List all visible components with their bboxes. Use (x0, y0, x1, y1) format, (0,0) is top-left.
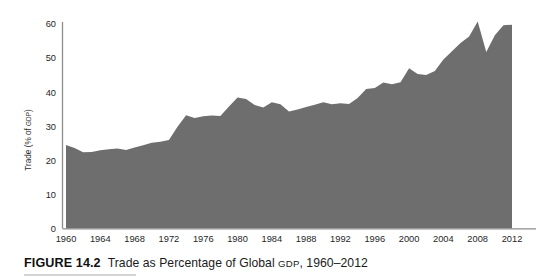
chart-plot-area: 0102030405060 19601964196819721976198019… (0, 0, 551, 250)
y-tick-40: 40 (46, 88, 56, 98)
x-tick-1984: 1984 (262, 234, 283, 244)
trade-share-area-chart: 0102030405060 19601964196819721976198019… (0, 0, 551, 250)
trade-area-series (66, 22, 512, 229)
y-axis-title-text: Trade (% of (24, 126, 33, 171)
figure-title-head: Trade as Percentage of Global (108, 256, 278, 270)
y-tick-20: 20 (46, 156, 56, 166)
figure-container: 0102030405060 19601964196819721976198019… (0, 0, 551, 277)
figure-caption-bar: FIGURE 14.2Trade as Percentage of Global… (0, 250, 551, 277)
y-tick-50: 50 (46, 53, 56, 63)
figure-number: FIGURE 14.2 (24, 256, 101, 270)
svg-text:Trade (% of GDP): Trade (% of GDP) (24, 109, 33, 171)
figure-caption: FIGURE 14.2Trade as Percentage of Global… (24, 253, 524, 271)
y-tick-0: 0 (51, 224, 56, 234)
x-tick-2004: 2004 (433, 234, 454, 244)
x-tick-2000: 2000 (399, 234, 420, 244)
caption-underline (24, 274, 136, 276)
y-tick-30: 30 (46, 122, 56, 132)
y-tick-60: 60 (46, 19, 56, 29)
x-tick-1992: 1992 (330, 234, 351, 244)
x-tick-1996: 1996 (364, 234, 385, 244)
x-tick-1972: 1972 (159, 234, 180, 244)
y-tick-10: 10 (46, 190, 56, 200)
x-axis-tick-labels: 1960196419681972197619801984198819921996… (56, 234, 523, 244)
x-tick-2012: 2012 (502, 234, 523, 244)
y-axis-tick-labels: 0102030405060 (46, 19, 56, 233)
x-tick-1960: 1960 (56, 234, 77, 244)
figure-title-tail: , 1960–2012 (300, 256, 368, 270)
x-tick-1976: 1976 (193, 234, 214, 244)
x-tick-1968: 1968 (124, 234, 145, 244)
x-tick-1980: 1980 (227, 234, 248, 244)
x-tick-1988: 1988 (296, 234, 317, 244)
y-axis-title: Trade (% of GDP) (24, 109, 33, 171)
x-tick-2008: 2008 (467, 234, 488, 244)
y-axis-title-tail: ) (24, 109, 33, 112)
x-tick-1964: 1964 (90, 234, 111, 244)
figure-title-gdp: GDP (278, 258, 299, 269)
y-axis-title-gdp: GDP (25, 112, 32, 126)
